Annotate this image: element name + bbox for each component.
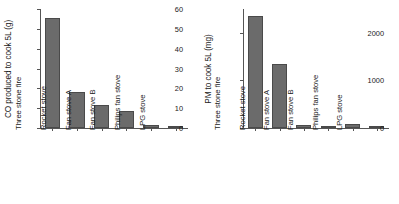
x-axis-label-co-0: Three stone fire	[15, 77, 23, 130]
y-tick-label-co-3: 30	[175, 64, 183, 73]
x-axis-label-co-4: Philips fan stove	[114, 75, 122, 130]
x-axis-label-co-5: LPG stove	[139, 95, 147, 130]
bar-pm-1	[272, 64, 287, 128]
y-tick-label-co-5: 50	[175, 24, 183, 33]
y-tick-pm-1	[240, 80, 243, 81]
y-tick-label-co-1: 10	[175, 104, 183, 113]
stove-emissions-figure: CO produced to cook 5L (g) 0102030405060…	[0, 0, 399, 204]
y-tick-label-co-6: 60	[175, 5, 183, 14]
y-tick-pm-2	[240, 33, 243, 34]
y-tick-co-6	[37, 9, 40, 10]
x-axis-label-pm-4: Philips fan stove	[312, 75, 320, 130]
y-tick-co-4	[37, 49, 40, 50]
x-axis-label-pm-2: Fan stove A	[263, 90, 271, 130]
chart-panel-co: CO produced to cook 5L (g) 0102030405060…	[0, 0, 199, 204]
y-tick-label-pm-2: 2000	[368, 28, 384, 37]
y-tick-label-co-4: 40	[175, 44, 183, 53]
x-axis-label-pm-3: Fan stove B	[287, 89, 295, 130]
x-axis-label-co-3: Fan stove B	[89, 89, 97, 130]
y-tick-label-pm-1: 1000	[368, 76, 384, 85]
bar-pm-0	[248, 16, 263, 128]
x-axis-label-pm-0: Three stone fire	[214, 77, 222, 130]
y-tick-label-co-2: 20	[175, 84, 183, 93]
chart-panel-pm: PM to cook 5L (mg) 010002000 Three stone…	[199, 0, 399, 204]
x-axis-label-co-1: Rocket stove	[40, 86, 48, 130]
x-axis-label-pm-5: LPG stove	[336, 95, 344, 130]
x-axis-labels-co: Three stone fireRocket stoveFan stove AF…	[0, 122, 199, 202]
x-axis-labels-pm: Three stone fireRocket stoveFan stove AF…	[199, 122, 399, 202]
y-tick-co-3	[37, 69, 40, 70]
x-axis-label-co-2: Fan stove A	[65, 90, 73, 130]
y-tick-co-5	[37, 29, 40, 30]
x-axis-label-pm-1: Rocket stove	[239, 86, 247, 130]
